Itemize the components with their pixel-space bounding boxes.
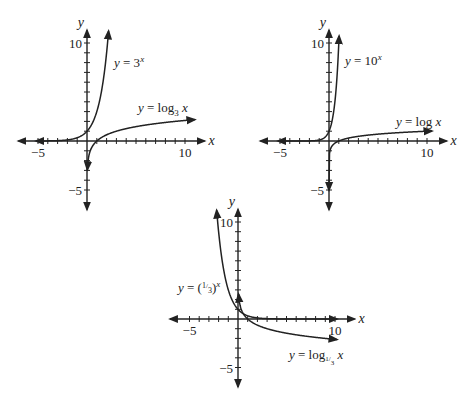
y-tick-label-neg5: −5 [68,183,82,198]
figure: −51010−5xyy = 3xy = log3 x −51010−5xyy =… [0,0,473,411]
x-tick-label-neg5: −5 [31,145,45,160]
x-tick-label-neg5: −5 [183,323,197,338]
x-axis-label: x [357,311,365,326]
x-tick-label-10: 10 [179,145,192,160]
y-tick-label-neg5: −5 [219,361,233,376]
y-tick-label-10: 10 [220,215,233,230]
curve-one-third-pow-x [217,210,337,319]
y-axis-label: y [318,15,327,30]
label-log-one-third-x: y = log1/3 x [287,347,343,367]
curve-log10-x [329,131,432,190]
graph-exp13-log13: −51010−5xyy = (1/3)xy = log1/3 x [170,194,365,387]
x-axis-label: x [450,133,458,148]
y-axis-label: y [76,15,85,30]
curve-10-pow-x [278,36,339,141]
label-log3-x: y = log3 x [136,100,188,118]
label-one-third-pow-x: y = (1/3)x [176,279,220,295]
graph-exp3-log3: −51010−5xyy = 3xy = log3 x [18,15,215,209]
label-log10-x: y = log x [394,114,441,129]
y-tick-label-10: 10 [311,36,324,51]
label-10-pow-x: y = 10x [343,52,382,68]
label-3-pow-x: y = 3x [112,54,144,70]
y-tick-label-10: 10 [69,36,82,51]
graph-exp10-log10: −51010−5xyy = 10xy = log x [260,15,457,209]
y-tick-label-neg5: −5 [310,183,324,198]
x-tick-label-10: 10 [421,145,434,160]
x-tick-label-neg5: −5 [273,145,287,160]
x-axis-label: x [208,133,216,148]
x-tick-label-10: 10 [329,323,342,338]
y-axis-label: y [227,194,236,209]
